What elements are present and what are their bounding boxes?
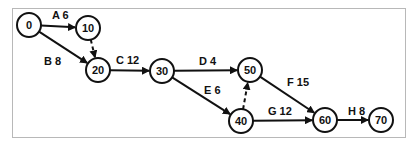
node-label: 60 <box>319 114 331 126</box>
node-label: 70 <box>375 114 387 126</box>
edge-30-50 <box>174 70 237 71</box>
node-label: 30 <box>156 65 168 77</box>
network-diagram: 010203050406070 A 6B 8C 12D 4E 6F 15G 12… <box>0 0 419 149</box>
edge-label: H 8 <box>348 105 365 117</box>
edge-label: F 15 <box>287 76 309 88</box>
edge-10-20 <box>91 40 95 58</box>
edge-label: A 6 <box>52 9 69 21</box>
edge-40-60 <box>253 120 312 121</box>
edge-20-30 <box>110 70 149 71</box>
edge-0-10 <box>41 26 75 28</box>
edge-label: B 8 <box>44 55 61 67</box>
node-label: 20 <box>92 64 104 76</box>
edge-label: E 6 <box>204 84 221 96</box>
node-label: 40 <box>235 115 247 127</box>
edge-label: D 4 <box>199 55 217 67</box>
node-label: 10 <box>82 22 94 34</box>
edge-40-50 <box>243 83 248 109</box>
node-label: 50 <box>244 64 256 76</box>
node-label: 0 <box>26 19 32 31</box>
edge-label: C 12 <box>116 54 139 66</box>
edge-30-40 <box>172 77 230 114</box>
edge-label: G 12 <box>268 105 292 117</box>
